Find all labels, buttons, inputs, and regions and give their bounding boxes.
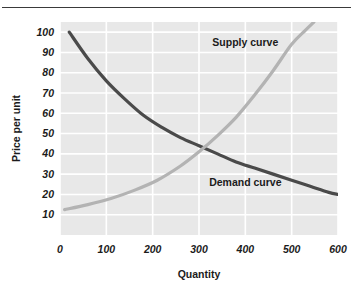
supply-demand-chart: 102030405060708090100 010020030040050060… [0, 0, 353, 286]
y-tick-label: 60 [42, 107, 54, 119]
y-axis-tick-labels: 102030405060708090100 [36, 26, 54, 221]
x-tick-label: 400 [236, 243, 255, 255]
x-tick-label: 300 [190, 243, 208, 255]
y-tick-label: 50 [42, 127, 54, 139]
y-tick-label: 20 [41, 188, 54, 200]
y-tick-label: 100 [36, 26, 54, 38]
y-tick-label: 80 [42, 66, 54, 78]
figure-container: 102030405060708090100 010020030040050060… [0, 0, 353, 286]
y-tick-label: 10 [42, 208, 54, 220]
x-tick-label: 100 [98, 243, 116, 255]
label-supply-curve: Supply curve [212, 36, 278, 48]
x-tick-label: 500 [283, 243, 301, 255]
x-tick-label: 200 [143, 243, 162, 255]
y-tick-label: 40 [41, 147, 54, 159]
y-tick-label: 30 [42, 168, 54, 180]
y-axis-title: Price per unit [10, 94, 22, 162]
x-tick-label: 0 [57, 243, 63, 255]
y-tick-label: 90 [42, 46, 54, 58]
y-tick-label: 70 [42, 87, 54, 99]
label-demand-curve: Demand curve [209, 176, 282, 188]
x-axis-tick-labels: 0100200300400500600 [57, 243, 347, 255]
x-axis-title: Quantity [178, 268, 221, 280]
x-tick-label: 600 [329, 243, 347, 255]
